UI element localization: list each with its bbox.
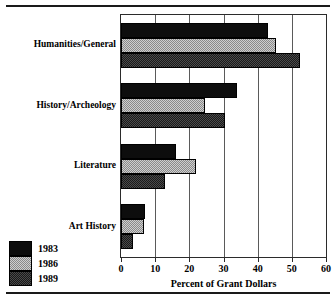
legend-swatch-1983: [9, 241, 32, 256]
legend-label-1983: 1983: [38, 242, 58, 255]
bar-1989-literature: [121, 174, 165, 189]
bar-1989-art-history: [121, 234, 133, 249]
x-axis-title: Percent of Grant Dollars: [120, 278, 327, 289]
gridline-60: [326, 15, 327, 257]
x-tick-label-30: 30: [212, 263, 236, 274]
category-label-history-archeology: History/Archeology: [36, 100, 116, 110]
x-tick-30: [224, 258, 225, 262]
x-tick-label-0: 0: [109, 263, 133, 274]
bar-1983-history-archeology: [121, 83, 237, 98]
category-label-literature: Literature: [74, 160, 116, 170]
bar-1983-art-history: [121, 204, 145, 219]
x-tick-20: [189, 258, 190, 262]
x-tick-50: [292, 258, 293, 262]
bar-1983-humanities-general: [121, 23, 268, 38]
legend-label-1986: 1986: [38, 257, 58, 270]
x-tick-0: [121, 258, 122, 262]
bar-1989-humanities-general: [121, 53, 300, 68]
category-label-humanities-general: Humanities/General: [34, 39, 116, 49]
x-tick-label-60: 60: [314, 263, 336, 274]
x-tick-label-40: 40: [246, 263, 270, 274]
bar-1983-literature: [121, 144, 176, 159]
bar-1986-art-history: [121, 219, 144, 234]
legend-entry-1989: 1989: [9, 271, 109, 286]
x-tick-label-20: 20: [177, 263, 201, 274]
chart-figure: Humanities/GeneralHistory/ArcheologyLite…: [0, 0, 336, 302]
bar-1986-history-archeology: [121, 98, 205, 113]
legend-swatch-1986: [9, 256, 32, 271]
chart-legend: 198319861989: [9, 241, 109, 287]
bottom-rule: [6, 292, 330, 294]
top-rule: [6, 5, 330, 7]
x-tick-40: [258, 258, 259, 262]
x-tick-label-10: 10: [143, 263, 167, 274]
bar-1986-literature: [121, 159, 196, 174]
plot-area: [120, 14, 327, 258]
category-label-art-history: Art History: [69, 221, 116, 231]
x-tick-10: [155, 258, 156, 262]
legend-label-1989: 1989: [38, 272, 58, 285]
category-axis-labels: Humanities/GeneralHistory/ArcheologyLite…: [0, 14, 116, 258]
legend-entry-1986: 1986: [9, 256, 109, 271]
bar-series-group: [121, 15, 326, 257]
bar-1986-humanities-general: [121, 38, 276, 53]
legend-swatch-1989: [9, 271, 32, 286]
legend-entry-1983: 1983: [9, 241, 109, 256]
x-tick-label-50: 50: [280, 263, 304, 274]
x-tick-60: [326, 258, 327, 262]
bar-1989-history-archeology: [121, 113, 225, 128]
